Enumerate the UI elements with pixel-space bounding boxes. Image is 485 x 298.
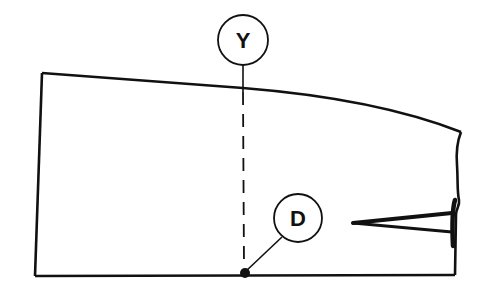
panel-outline bbox=[35, 73, 461, 276]
label-y: Y bbox=[236, 28, 251, 53]
point-d-dot bbox=[240, 268, 250, 278]
reference-d: D bbox=[240, 194, 322, 278]
left-edge bbox=[35, 73, 42, 276]
reference-y: Y bbox=[218, 15, 268, 268]
top-edge bbox=[42, 73, 461, 132]
leader-d bbox=[245, 237, 282, 272]
label-d: D bbox=[290, 206, 306, 231]
diagram-canvas: Y D bbox=[0, 0, 485, 298]
dashed-line-y bbox=[243, 92, 244, 268]
wedge-crack bbox=[353, 213, 452, 232]
edge-split-mark bbox=[452, 200, 455, 246]
